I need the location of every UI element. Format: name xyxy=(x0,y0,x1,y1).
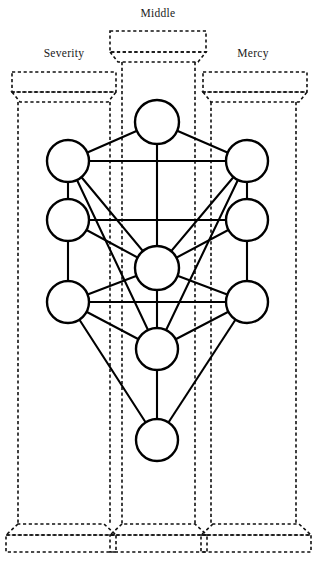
sephirah-node-lower-center xyxy=(136,328,178,370)
pillar-base-trapezoid-mercy xyxy=(201,524,311,535)
sephirah-node-lower-left xyxy=(47,281,89,323)
sephirah-node-middle-upper-right xyxy=(226,199,268,241)
sephirah-node-upper-right xyxy=(226,140,268,182)
pillar-label-middle: Middle xyxy=(111,7,205,19)
sephirah-node-bottom-center xyxy=(136,419,178,461)
pillar-base-rect-middle xyxy=(110,535,207,552)
sephirah-node-lower-right xyxy=(226,281,268,323)
pillar-capital-rect-severity xyxy=(12,72,116,92)
sephirah-node-middle-upper-left xyxy=(47,199,89,241)
pillar-capital-trapezoid-mercy xyxy=(203,92,307,102)
pillar-label-severity: Severity xyxy=(18,47,110,59)
pillar-base-rect-severity xyxy=(6,535,116,552)
pillar-capital-rect-middle xyxy=(110,31,206,52)
pillar-capital-trapezoid-middle xyxy=(110,52,206,62)
sephirah-node-center xyxy=(135,246,179,290)
pillar-label-mercy: Mercy xyxy=(207,47,299,59)
pillar-capital-trapezoid-severity xyxy=(12,92,116,102)
pillar-capital-rect-mercy xyxy=(203,72,307,92)
pillar-base-trapezoid-severity xyxy=(6,524,116,535)
sephirah-node-upper-left xyxy=(47,140,89,182)
pillar-base-rect-mercy xyxy=(201,535,311,552)
tree-of-life-canvas xyxy=(0,0,317,564)
tree-of-life-diagram: Severity Middle Mercy xyxy=(0,0,317,564)
pillar-base-trapezoid-middle xyxy=(110,524,207,535)
sephirah-node-top-center xyxy=(135,100,179,144)
